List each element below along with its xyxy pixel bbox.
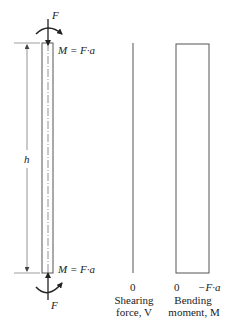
beam-diagram-graphic xyxy=(0,0,231,328)
moment-zero-label: 0 xyxy=(174,281,180,293)
moment-caption-line1: Bending xyxy=(170,294,216,306)
bottom-moment-label: M = F·a xyxy=(58,263,95,275)
moment-value-label: −F·a xyxy=(198,281,220,293)
length-label: h xyxy=(23,153,31,165)
top-force-label: F xyxy=(52,9,59,21)
bending-moment-diagram xyxy=(176,44,209,273)
shear-caption-line2: force, V xyxy=(110,306,158,318)
shear-caption-line1: Shearing xyxy=(114,294,154,306)
top-moment-label: M = F·a xyxy=(58,44,95,56)
top-moment-arc xyxy=(36,28,62,34)
beam xyxy=(42,43,53,273)
moment-caption-line2: moment, M xyxy=(164,306,224,318)
bottom-moment-arc xyxy=(36,283,62,293)
bottom-force-label: F xyxy=(51,299,58,311)
shear-zero-label: 0 xyxy=(130,281,136,293)
